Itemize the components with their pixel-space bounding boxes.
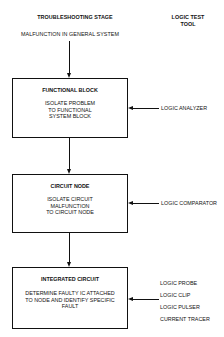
tool-label: LOGIC COMPARATOR	[161, 200, 217, 206]
tool-column-title-line2: TOOL	[168, 21, 208, 28]
start-label: MALFUNCTION IN GENERAL SYSTEM	[18, 31, 122, 38]
tool-label: LOGIC CLIP	[160, 292, 190, 298]
stage-box-functional-block: FUNCTIONAL BLOCK ISOLATE PROBLEM TO FUNC…	[12, 78, 128, 138]
connector-line	[69, 138, 70, 169]
tool-column-title: LOGIC TEST TOOL	[168, 14, 208, 28]
arrow-left-icon	[128, 297, 133, 301]
tool-label: LOGIC ANALYZER	[161, 105, 207, 111]
stage-description: DETERMINE FAULTY IC ATTACHED TO NODE AND…	[13, 290, 127, 310]
tool-label: LOGIC PROBE	[160, 280, 197, 286]
stage-description: ISOLATE CIRCUIT MALFUNCTION TO CIRCUIT N…	[13, 196, 127, 216]
tool-label: CURRENT TRACER	[160, 316, 210, 322]
arrow-left-icon	[128, 201, 133, 205]
stage-title: INTEGRATED CIRCUIT	[13, 276, 127, 282]
stage-box-circuit-node: CIRCUIT NODE ISOLATE CIRCUIT MALFUNCTION…	[12, 174, 128, 233]
stage-title: FUNCTIONAL BLOCK	[13, 87, 127, 93]
tool-connector-line	[133, 299, 159, 300]
tool-connector-line	[133, 108, 159, 109]
stage-description: ISOLATE PROBLEM TO FUNCTIONAL SYSTEM BLO…	[13, 100, 127, 120]
stage-box-integrated-circuit: INTEGRATED CIRCUIT DETERMINE FAULTY IC A…	[12, 267, 128, 329]
stage-title: CIRCUIT NODE	[13, 183, 127, 189]
connector-line	[69, 233, 70, 262]
stage-column-title: TROUBLESHOOTING STAGE	[30, 14, 120, 21]
tool-connector-line	[133, 203, 159, 204]
arrow-left-icon	[128, 106, 133, 110]
tool-label: LOGIC PULSER	[160, 304, 200, 310]
connector-line	[69, 41, 70, 73]
tool-column-title-line1: LOGIC TEST	[168, 14, 208, 21]
